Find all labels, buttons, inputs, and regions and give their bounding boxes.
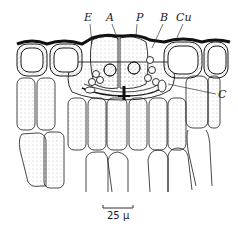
label-E: E bbox=[84, 12, 92, 23]
scale-bar bbox=[103, 205, 133, 208]
scale-bar-label: 25 μ bbox=[107, 211, 129, 221]
label-C: C bbox=[218, 89, 226, 100]
cross-section-drawing bbox=[0, 0, 238, 228]
botanical-cross-section-figure: E A P B Cu C 25 μ bbox=[0, 0, 238, 228]
label-P: P bbox=[136, 12, 143, 23]
label-B: B bbox=[160, 12, 168, 23]
label-A: A bbox=[106, 12, 114, 23]
label-Cu: Cu bbox=[176, 12, 192, 23]
